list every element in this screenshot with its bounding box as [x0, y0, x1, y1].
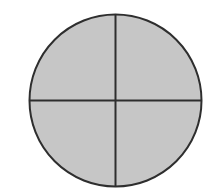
diagram-canvas — [0, 0, 213, 194]
quartered-circle-diagram — [0, 0, 213, 194]
